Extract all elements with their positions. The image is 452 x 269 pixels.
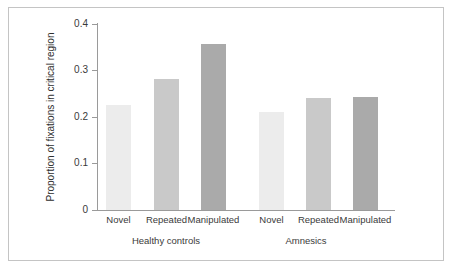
y-axis-tick-label: 0.1 <box>74 156 88 169</box>
group-label: Amnesics <box>246 234 366 247</box>
y-axis-tick-mark <box>92 210 97 211</box>
y-axis-line <box>97 23 98 211</box>
x-axis-line <box>97 210 395 211</box>
y-axis-tick: 0.1 <box>92 163 97 164</box>
bar <box>259 112 284 210</box>
bar <box>201 44 226 210</box>
y-axis-tick-mark <box>92 117 97 118</box>
bar-chart-plot: 00.10.20.30.4 Proportion of fixations in… <box>0 0 452 269</box>
y-axis-tick-label: 0.4 <box>74 17 88 30</box>
group-label: Healthy controls <box>106 234 226 247</box>
bar <box>106 105 131 210</box>
y-axis-tick: 0.3 <box>92 70 97 71</box>
y-axis-tick: 0 <box>92 210 97 211</box>
y-axis-label: Proportion of fixations in critical regi… <box>45 42 56 202</box>
y-axis-tick-mark <box>92 24 97 25</box>
y-axis-tick-mark <box>92 70 97 71</box>
y-axis-tick: 0.4 <box>92 24 97 25</box>
bar <box>154 79 179 210</box>
y-axis-tick-mark <box>92 163 97 164</box>
figure: 00.10.20.30.4 Proportion of fixations in… <box>0 0 452 269</box>
y-axis-tick-label: 0.2 <box>74 110 88 123</box>
y-axis-tick: 0.2 <box>92 117 97 118</box>
bar <box>306 98 331 210</box>
x-axis-tick-label: Manipulated <box>326 213 406 226</box>
bar <box>353 97 378 210</box>
y-axis-tick-label: 0.3 <box>74 63 88 76</box>
